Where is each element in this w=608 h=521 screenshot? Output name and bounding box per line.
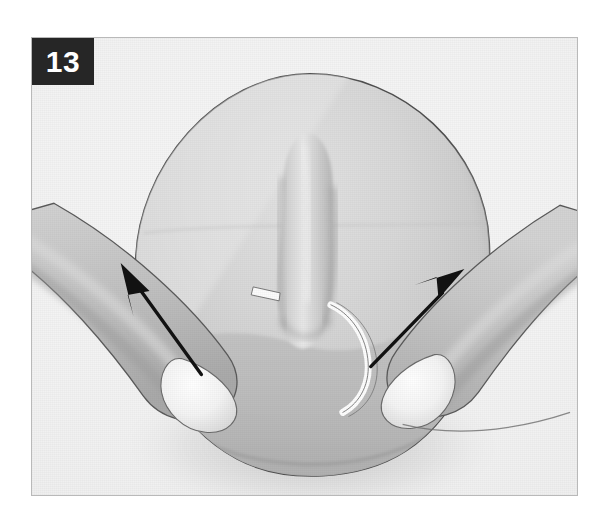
illustration-canvas <box>32 38 577 495</box>
figure-frame: 13 <box>31 37 578 496</box>
step-number-badge: 13 <box>32 38 94 85</box>
central-vertical-protrusion <box>277 134 334 349</box>
illustration-svg <box>32 38 577 495</box>
page-root: 13 <box>0 0 608 521</box>
